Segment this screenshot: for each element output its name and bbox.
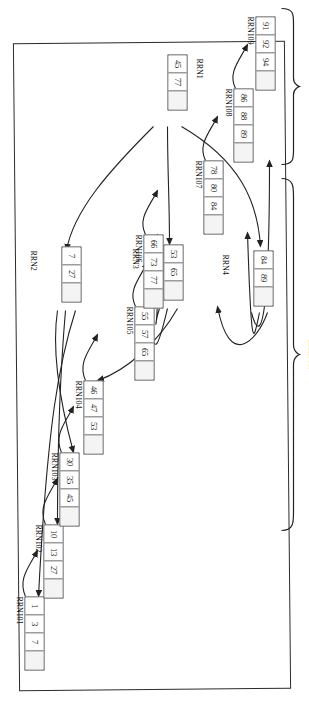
key-cell: 86 bbox=[234, 89, 252, 107]
leaf-node-rrn106[interactable]: 66 73 77 bbox=[143, 234, 163, 308]
leaf-node-rrn103-label: RRN103 bbox=[49, 452, 58, 480]
sequence-set-brace-group: Sequence set (inverted list pointing to … bbox=[263, 6, 301, 166]
key-cell: 7 bbox=[25, 633, 43, 651]
b-plus-tree-diagram: 45 77 RRN1 7 27 RRN2 53 65 RRN3 84 89 RR… bbox=[0, 0, 309, 720]
key-cell: 65 bbox=[135, 343, 153, 361]
key-cell: 1 bbox=[25, 597, 43, 615]
key-cell: 30 bbox=[60, 453, 78, 471]
leaf-node-rrn105[interactable]: 55 57 65 bbox=[134, 306, 154, 380]
key-cell: 77 bbox=[144, 271, 162, 289]
leaf-node-rrn108[interactable]: 86 88 89 bbox=[233, 88, 253, 162]
sequence-set-label: Sequence set (inverted list pointing to … bbox=[307, 6, 309, 166]
key-cell: 27 bbox=[44, 561, 62, 579]
index-node-rrn1-label: RRN1 bbox=[194, 58, 203, 78]
index-node-rrn1[interactable]: 45 77 bbox=[167, 54, 187, 110]
key-cell: 13 bbox=[44, 543, 62, 561]
key-cell: 73 bbox=[144, 253, 162, 271]
key-cell: 10 bbox=[44, 525, 62, 543]
key-cell: 3 bbox=[25, 615, 43, 633]
leaf-node-rrn101-label: RRN101 bbox=[14, 596, 23, 624]
key-cell: 47 bbox=[84, 399, 102, 417]
leaf-node-rrn108-label: RRN108 bbox=[223, 88, 232, 116]
key-cell: 46 bbox=[84, 381, 102, 399]
leaf-node-rrn104-label: RRN104 bbox=[73, 380, 82, 408]
index-node-rrn4-label: RRN4 bbox=[220, 254, 229, 274]
pointer-cell bbox=[135, 361, 153, 379]
pointer-cell bbox=[144, 289, 162, 307]
pointer-cell bbox=[62, 283, 80, 301]
leaf-node-rrn109-label: RRN109 bbox=[245, 16, 254, 44]
key-cell: 35 bbox=[60, 471, 78, 489]
index-node-rrn2[interactable]: 7 27 bbox=[61, 246, 81, 302]
index-set-brace bbox=[279, 176, 301, 532]
pointer-cell bbox=[44, 579, 62, 597]
pointer-cell bbox=[168, 91, 186, 109]
leaf-node-rrn106-label: RRN106 bbox=[133, 234, 142, 262]
key-cell: 45 bbox=[60, 489, 78, 507]
pointer-cell bbox=[204, 215, 222, 233]
diagram-canvas: 45 77 RRN1 7 27 RRN2 53 65 RRN3 84 89 RR… bbox=[0, 0, 309, 720]
key-cell: 80 bbox=[204, 179, 222, 197]
leaf-node-rrn101[interactable]: 1 3 7 bbox=[24, 596, 44, 670]
pointer-cell bbox=[234, 143, 252, 161]
key-cell: 27 bbox=[62, 265, 80, 283]
leaf-node-rrn107-label: RRN107 bbox=[193, 160, 202, 188]
key-cell: 84 bbox=[204, 197, 222, 215]
leaf-node-rrn103[interactable]: 30 35 45 bbox=[59, 452, 79, 526]
key-cell: 88 bbox=[234, 107, 252, 125]
pointer-cell bbox=[164, 281, 182, 299]
index-node-rrn3[interactable]: 53 65 bbox=[163, 244, 183, 300]
leaf-node-rrn107[interactable]: 78 80 84 bbox=[203, 160, 223, 234]
key-cell: 89 bbox=[234, 125, 252, 143]
key-cell: 55 bbox=[135, 307, 153, 325]
pointer-cell bbox=[25, 651, 43, 669]
key-cell: 7 bbox=[62, 247, 80, 265]
key-cell: 65 bbox=[164, 263, 182, 281]
leaf-node-rrn105-label: RRN105 bbox=[124, 306, 133, 334]
index-node-rrn2-label: RRN2 bbox=[28, 250, 37, 270]
sequence-set-brace bbox=[279, 6, 301, 166]
key-cell: 57 bbox=[135, 325, 153, 343]
leaf-node-rrn102-label: RRN102 bbox=[33, 524, 42, 552]
key-cell: 78 bbox=[204, 161, 222, 179]
leaf-node-rrn104[interactable]: 46 47 53 bbox=[83, 380, 103, 454]
index-set-label: Index set bbox=[305, 176, 309, 532]
key-cell: 53 bbox=[164, 245, 182, 263]
pointer-cell bbox=[60, 507, 78, 525]
key-cell: 77 bbox=[168, 73, 186, 91]
key-cell: 45 bbox=[168, 55, 186, 73]
index-set-brace-group: Index set bbox=[263, 176, 301, 532]
key-cell: 53 bbox=[84, 417, 102, 435]
leaf-node-rrn102[interactable]: 10 13 27 bbox=[43, 524, 63, 598]
pointer-cell bbox=[84, 435, 102, 453]
key-cell: 66 bbox=[144, 235, 162, 253]
